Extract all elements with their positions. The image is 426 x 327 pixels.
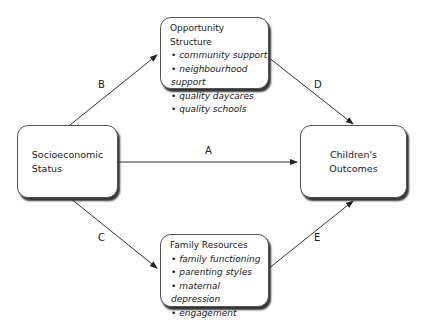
edge-label-b: B (98, 79, 105, 90)
node-ses-line1: Socioeconomic (32, 148, 103, 162)
family-title: Family Resources (170, 239, 268, 253)
opportunity-title: Opportunity Structure (170, 22, 268, 49)
edge-c (70, 198, 157, 268)
edge-label-e: E (314, 232, 320, 243)
node-opportunity-structure: Opportunity Structure community support … (160, 17, 269, 89)
node-family-resources: Family Resources family functioning pare… (160, 234, 269, 307)
family-list: family functioning parenting styles mate… (170, 253, 268, 321)
opportunity-list: community support neighbourhood support … (170, 49, 268, 117)
list-item: neighbourhood support (170, 63, 268, 90)
edge-b (70, 55, 157, 125)
node-socioeconomic-status: Socioeconomic Status (17, 125, 118, 198)
list-item: family functioning (170, 253, 268, 267)
list-item: engagement (170, 307, 268, 321)
edge-label-a: A (205, 145, 212, 156)
list-item: quality daycares (170, 90, 268, 104)
list-item: community support (170, 49, 268, 63)
node-ses-line2: Status (32, 162, 103, 176)
list-item: parenting styles (170, 266, 268, 280)
edge-label-d: D (314, 79, 322, 90)
edge-d (268, 57, 353, 124)
edge-e (268, 201, 353, 269)
list-item: maternal depression (170, 280, 268, 307)
node-childrens-outcomes: Children's Outcomes (300, 125, 407, 198)
node-outcomes-line2: Outcomes (329, 162, 377, 176)
edge-label-c: C (98, 232, 105, 243)
list-item: quality schools (170, 103, 268, 117)
node-outcomes-line1: Children's (329, 148, 377, 162)
